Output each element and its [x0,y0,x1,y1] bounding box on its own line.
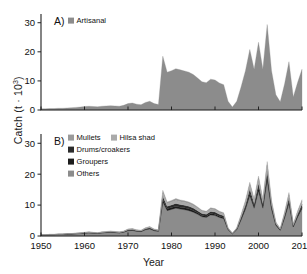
y-tick-label: 20 [24,169,35,180]
legend-swatch-groupers [68,159,74,165]
legend-swatch-hilsa-shad [111,135,117,141]
panel-letter: B) [54,135,65,147]
legend-swatch-mullets [68,135,74,141]
series-area-artisanal [41,24,302,110]
legend-swatch-drums-croakers [68,147,74,153]
x-tick-label: 1950 [30,240,51,251]
x-tick-label: 1960 [74,240,95,251]
x-axis-title: Year [0,256,307,268]
y-tick-label: 10 [24,199,35,210]
panel-letter: A) [54,15,65,27]
legend-label: Others [77,169,100,178]
legend-swatch-artisanal [68,18,74,24]
panel-b-plot: 0102030B)MulletsHilsa shadDrums/croakers… [0,126,307,256]
legend-label: Drums/croakers [77,145,131,154]
x-tick-label: 2000 [248,240,269,251]
y-tick-label: 0 [30,104,35,115]
panel-b: 0102030B)MulletsHilsa shadDrums/croakers… [0,126,307,256]
y-tick-label: 30 [24,17,35,28]
legend-label: Artisanal [77,16,107,25]
legend-label: Mullets [77,133,101,142]
x-tick-label: 2010 [291,240,307,251]
y-tick-label: 10 [24,75,35,86]
legend-label: Groupers [77,157,109,166]
x-tick-label: 1990 [204,240,225,251]
figure-root: Catch (t · 103) 0102030A)Artisanal 01020… [0,0,307,274]
legend-swatch-others [68,171,74,177]
x-tick-label: 1970 [117,240,138,251]
y-tick-label: 20 [24,46,35,57]
x-tick-label: 1980 [161,240,182,251]
y-tick-label: 30 [24,138,35,149]
panel-a: 0102030A)Artisanal [0,6,307,122]
legend-label: Hilsa shad [120,133,155,142]
panel-a-plot: 0102030A)Artisanal [0,6,307,122]
